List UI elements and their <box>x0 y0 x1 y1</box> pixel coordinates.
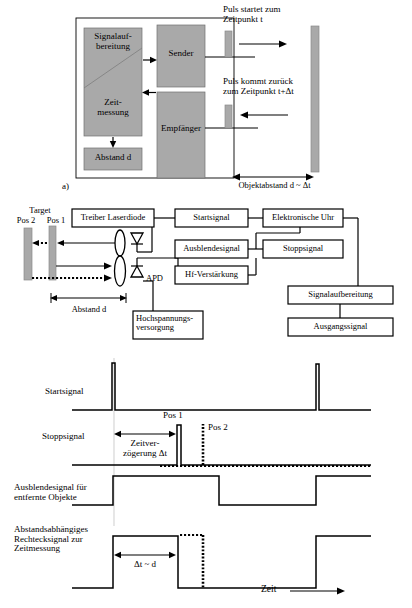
target-title-label: Target <box>10 206 70 215</box>
deltat-left-head <box>114 552 121 558</box>
signal-processing-b-label: Signalaufbereitung <box>288 290 393 299</box>
deltat-right-head <box>169 552 176 558</box>
blanking-signal-label: Ausblendesignal <box>175 244 248 253</box>
output-signal-label: Ausgangssignal <box>288 322 393 331</box>
receiver-block <box>157 92 205 178</box>
target-bar-pos1 <box>49 226 56 280</box>
transmit-arrow-head <box>279 40 287 47</box>
arrow-to-distance-head <box>110 141 116 148</box>
receive-pulse <box>225 105 232 128</box>
deltat-d-annotation: Δt ~ d <box>114 560 176 570</box>
beam-to-pos2-head <box>32 240 39 246</box>
delay-annotation: Zeitver- zögerung Δt <box>114 439 176 458</box>
delay-right-head <box>169 431 176 437</box>
pulse-start-annotation: Puls startet zum Zeitpunkt t <box>223 5 281 24</box>
pos1-annotation: Pos 1 <box>163 411 183 421</box>
return-beam-pos2-head <box>104 274 112 281</box>
laser-diode-icon <box>131 233 143 244</box>
transmit-lens <box>115 230 125 256</box>
apd-label: APD <box>146 274 163 283</box>
electronic-clock-label: Elektronische Uhr <box>263 213 343 222</box>
panel-a-tag: a) <box>62 182 69 192</box>
object-distance-label: Objektabstand d ~ Δt <box>222 181 327 190</box>
receive-arrow-head <box>240 111 248 118</box>
receiver-label: Empfänger <box>155 124 207 134</box>
time-axis-head <box>337 587 345 594</box>
pulse-return-annotation: Puls kommt zurück zum Zeitpunkt t+Δt <box>223 77 294 96</box>
stop-signal-label: Stoppsignal <box>263 244 343 253</box>
start-signal-label: Startsignal <box>175 213 248 222</box>
target-object-bar <box>311 26 319 172</box>
ausblendesignal-trace <box>72 476 371 505</box>
outgoing-beam-head <box>57 240 64 246</box>
transmit-pulse <box>225 31 232 57</box>
pos2-annotation: Pos 2 <box>208 423 228 433</box>
delay-left-head <box>114 431 121 437</box>
panel-a-graphics <box>0 0 412 200</box>
target-bar-pos2 <box>24 228 32 280</box>
tof-laser-ranging-figure: Signalauf- bereitung Zeit- messung Absta… <box>0 0 412 608</box>
abstand-d-label: Abstand d <box>54 305 124 314</box>
hf-amplifier-label: Hf-Verstärkung <box>175 270 248 279</box>
startsignal-trace <box>72 363 371 410</box>
trace-label-stoppsignal: Stoppsignal <box>42 432 85 442</box>
trace-label-rechtecksignal: Abstandsabhängiges Rechtecksignal zur Ze… <box>14 525 88 554</box>
return-beam-pos1-head <box>104 262 112 269</box>
transmitter-label: Sender <box>157 49 205 59</box>
time-measurement-label: Zeit- messung <box>84 98 142 117</box>
signal-processing-label: Signalauf- bereitung <box>84 32 142 51</box>
high-voltage-label: Hochspannungs- versorgung <box>136 314 193 332</box>
trace-label-ausblendesignal: Ausblendesignal für entfernte Objekte <box>14 483 87 502</box>
laser-driver-label: Treiber Laserdiode <box>72 213 154 222</box>
receive-lens <box>115 256 126 286</box>
pos1-label: Pos 1 <box>36 216 76 225</box>
trace-label-startsignal: Startsignal <box>45 387 84 397</box>
time-axis-label: Zeit <box>261 584 276 594</box>
arrow-to-transmitter-head <box>150 57 157 63</box>
arrow-to-time-measurement-head <box>142 89 149 95</box>
apd-icon <box>131 266 143 277</box>
distance-output-label: Abstand d <box>84 153 142 163</box>
